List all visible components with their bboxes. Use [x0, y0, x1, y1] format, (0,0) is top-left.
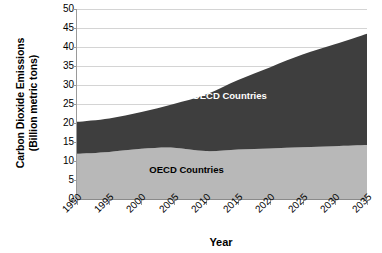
- y-tick-label: 15: [52, 137, 74, 147]
- y-axis-title-line1: Carbon Dioxide Emissions: [14, 37, 27, 168]
- y-axis-title-line2: (Billion metric tons): [26, 37, 39, 168]
- series-label: Non-OECD Countries: [171, 89, 267, 100]
- y-tick-label: 50: [52, 4, 74, 14]
- y-tick-label: 25: [52, 99, 74, 109]
- y-tick-label: 40: [52, 42, 74, 52]
- y-tick-mark: [72, 9, 77, 10]
- series-label: OECD Countries: [149, 163, 223, 174]
- y-tick-mark: [72, 180, 77, 181]
- y-tick-mark: [72, 28, 77, 29]
- y-tick-mark: [72, 66, 77, 67]
- y-tick-mark: [72, 123, 77, 124]
- y-tick-label: 5: [52, 175, 74, 185]
- y-tick-mark: [72, 142, 77, 143]
- y-tick-mark: [72, 104, 77, 105]
- y-tick-label: 20: [52, 118, 74, 128]
- y-tick-mark: [72, 161, 77, 162]
- chart-container: Carbon Dioxide Emissions (Billion metric…: [0, 0, 382, 253]
- y-tick-mark: [72, 47, 77, 48]
- y-tick-label: 45: [52, 23, 74, 33]
- y-axis-tick-labels: 05101520253035404550: [52, 0, 74, 253]
- y-axis-title: Carbon Dioxide Emissions (Billion metric…: [0, 0, 52, 205]
- y-tick-label: 35: [52, 61, 74, 71]
- y-tick-label: 10: [52, 156, 74, 166]
- y-tick-mark: [72, 199, 77, 200]
- y-tick-label: 30: [52, 80, 74, 90]
- y-tick-mark: [72, 85, 77, 86]
- area-series-group: [77, 34, 367, 199]
- x-axis-title-text: Year: [209, 236, 232, 248]
- x-axis-title: Year: [0, 236, 382, 248]
